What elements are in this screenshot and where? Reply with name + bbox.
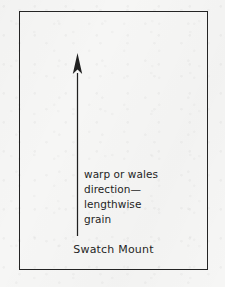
swatch-mount-frame xyxy=(19,11,208,270)
grain-label-line-2: direction— xyxy=(84,182,194,197)
swatch-mount-caption: Swatch Mount xyxy=(19,243,208,256)
figure-page: warp or wales direction— lengthwise grai… xyxy=(0,0,225,287)
grain-label-line-3: lengthwise xyxy=(84,197,194,212)
grain-direction-label: warp or wales direction— lengthwise grai… xyxy=(84,167,194,227)
grain-label-line-4: grain xyxy=(84,212,194,227)
grain-label-line-1: warp or wales xyxy=(84,167,194,182)
